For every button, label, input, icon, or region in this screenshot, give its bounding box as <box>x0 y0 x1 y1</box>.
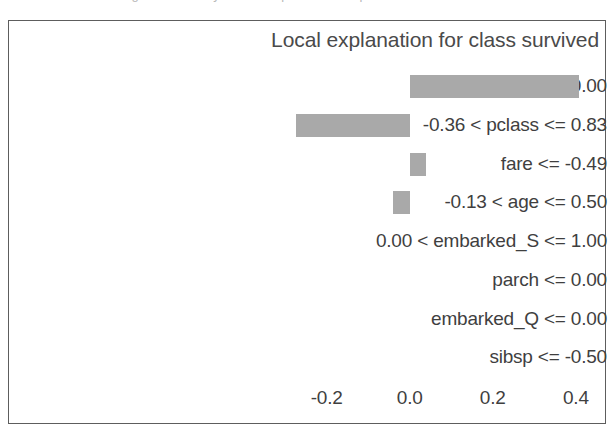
chart-title: Local explanation for class survived <box>271 28 599 52</box>
x-axis-tick-labels: -0.20.00.20.4 <box>281 387 605 421</box>
bar-row: 0.00 < embarked_S <= 1.00 <box>9 222 607 261</box>
bar-track <box>281 106 607 145</box>
bar-track <box>281 145 607 184</box>
bar-row: embarked_Q <= 0.00 <box>9 300 607 339</box>
bar-track <box>281 338 607 377</box>
bar <box>296 114 409 137</box>
bar-track <box>281 183 607 222</box>
bar-track <box>281 261 607 300</box>
clipped-caption-strip: Figure: LIME-style local explanation out… <box>0 0 615 14</box>
bar-row: parch <= 0.00 <box>9 261 607 300</box>
bar-row: sibsp <= -0.50 <box>9 338 607 377</box>
x-tick-label: 0.0 <box>397 387 423 409</box>
bar-track <box>281 67 607 106</box>
bar-track <box>281 222 607 261</box>
chart-plot-frame: Local explanation for class survived sex… <box>8 20 606 424</box>
x-tick-label: 0.4 <box>563 387 589 409</box>
x-tick-label: -0.2 <box>311 387 343 409</box>
bar-row: -0.36 < pclass <= 0.83 <box>9 106 607 145</box>
bar <box>410 153 427 176</box>
clipped-caption-text: Figure: LIME-style local explanation out… <box>120 0 379 2</box>
bar-row: sex_male <= 0.00 <box>9 67 607 106</box>
bar-row: fare <= -0.49 <box>9 145 607 184</box>
bar-track <box>281 300 607 339</box>
bar <box>393 191 410 214</box>
bar-chart-plot-area: sex_male <= 0.00-0.36 < pclass <= 0.83fa… <box>9 67 607 377</box>
bar-row: -0.13 < age <= 0.50 <box>9 183 607 222</box>
x-tick-label: 0.2 <box>480 387 506 409</box>
bar <box>410 75 579 98</box>
